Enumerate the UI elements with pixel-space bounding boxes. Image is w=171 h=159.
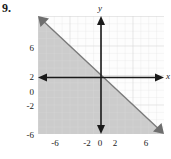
- y-tick-label-neg2: -2: [20, 102, 34, 111]
- graph-figure: 9.: [0, 0, 171, 159]
- coordinate-plane: [38, 16, 164, 134]
- x-tick-label-6: 6: [141, 139, 151, 148]
- x-axis-label: x: [166, 72, 170, 81]
- x-tick-label-neg6: -6: [48, 139, 62, 148]
- x-tick-label-2: 2: [110, 139, 120, 148]
- x-tick-label-0: 0: [95, 139, 105, 148]
- problem-number: 9.: [2, 1, 11, 15]
- y-tick-label-0: 0: [22, 88, 34, 97]
- y-tick-label-neg6: -6: [20, 131, 34, 140]
- y-tick-label-2: 2: [22, 73, 34, 82]
- y-tick-label-6: 6: [22, 44, 34, 53]
- y-axis-label: y: [98, 4, 102, 13]
- graph-svg: [38, 16, 164, 134]
- x-tick-label-neg2: -2: [80, 139, 94, 148]
